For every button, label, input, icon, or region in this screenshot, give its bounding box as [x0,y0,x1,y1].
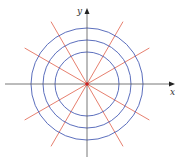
y-axis-label: y [76,6,83,16]
origin-point [85,82,89,86]
y-axis-arrow-icon [85,8,90,14]
x-axis-label: x [170,87,175,97]
x-axis-arrow-icon [169,82,175,87]
polar-grid-figure: y x [0,0,175,160]
polar-grid-diagram: y x [0,0,175,160]
